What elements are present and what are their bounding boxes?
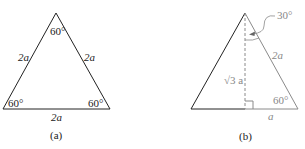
hypotenuse-line (245, 13, 298, 109)
left-side-label: 2a (18, 51, 30, 63)
half-base-label: a (268, 110, 274, 122)
bottom-left-angle-label: 60° (8, 97, 23, 109)
base-label: 2a (51, 111, 63, 123)
arrowhead-icon (249, 32, 255, 37)
angle-arc (245, 38, 259, 40)
apex-angle-label: 60° (50, 25, 65, 37)
height-label: √3 a (224, 74, 243, 86)
base-angle-label: 60° (273, 94, 288, 106)
right-angle-marker (245, 101, 253, 109)
bottom-right-angle-label: 60° (88, 97, 103, 109)
left-side-line (191, 13, 245, 109)
diagram-canvas: 60° 2a 2a 60° 60° 2a (a) 30° 2a √3 a 60°… (0, 0, 305, 149)
right-side-label: 2a (84, 51, 96, 63)
figure-b: 30° 2a √3 a 60° a (b) (191, 9, 298, 143)
half-angle-label: 30° (277, 9, 292, 21)
caption-a: (a) (50, 129, 63, 142)
figure-a: 60° 2a 2a 60° 60° 2a (a) (3, 13, 110, 142)
caption-b: (b) (239, 130, 252, 143)
hypotenuse-label: 2a (272, 49, 284, 61)
